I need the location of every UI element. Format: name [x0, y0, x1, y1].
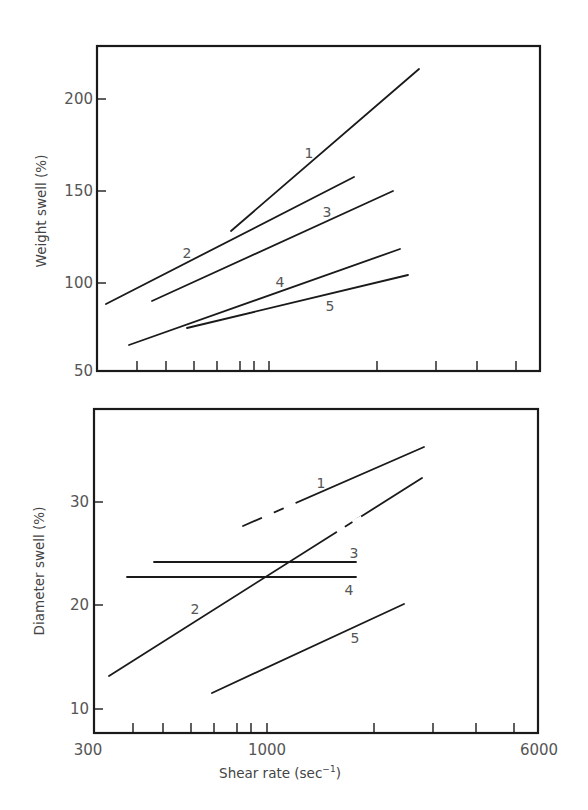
top-ytick-label-150: 150 — [64, 182, 93, 200]
x-axis-title-superscript: −1 — [322, 764, 335, 774]
x-axis-title-main: Shear rate (sec — [219, 765, 322, 781]
bottom-xtick-label-6000: 6000 — [520, 741, 558, 759]
bottom-xticks — [133, 723, 514, 733]
top-ytick-label-100: 100 — [64, 274, 93, 292]
top-y-axis-title: Weight swell (%) — [33, 155, 49, 268]
top-series-2 — [106, 177, 354, 304]
top-series-label-1: 1 — [305, 145, 314, 161]
bottom-series-label-5: 5 — [351, 630, 360, 646]
top-series-label-3: 3 — [323, 204, 332, 220]
bottom-ytick-label-30: 30 — [70, 493, 89, 511]
figure: 200 150 100 50 1 2 3 4 5 Wei — [0, 0, 588, 810]
dash-gaps — [262, 504, 362, 532]
bottom-series-5 — [212, 604, 404, 693]
top-series-5 — [187, 275, 408, 328]
top-chart-weight-swell: 200 150 100 50 1 2 3 4 5 Wei — [33, 46, 540, 380]
bottom-xtick-label-1000: 1000 — [248, 741, 286, 759]
top-ytick-label-200: 200 — [64, 90, 93, 108]
bottom-series-label-3: 3 — [350, 545, 359, 561]
bottom-series-label-2: 2 — [191, 601, 200, 617]
bottom-plot-frame — [94, 409, 538, 733]
bottom-xtick-label-300: 300 — [74, 741, 103, 759]
x-axis-title-close: ) — [336, 765, 341, 781]
x-axis-title: Shear rate (sec−1) — [219, 764, 341, 781]
top-series-label-2: 2 — [183, 245, 192, 261]
bottom-series-label-1: 1 — [317, 475, 326, 491]
top-xticks — [137, 361, 516, 371]
bottom-chart-diameter-swell: 30 20 10 300 1000 6000 — [31, 409, 558, 781]
top-series-label-4: 4 — [276, 274, 285, 290]
bottom-ytick-label-20: 20 — [70, 596, 89, 614]
top-series-label-5: 5 — [326, 298, 335, 314]
bottom-series-label-4: 4 — [345, 582, 354, 598]
top-plot-frame — [97, 46, 540, 371]
top-series-4 — [129, 249, 400, 345]
top-ytick-label-50: 50 — [74, 362, 93, 380]
bottom-y-axis-title: Diameter swell (%) — [31, 507, 47, 636]
bottom-ytick-label-10: 10 — [70, 700, 89, 718]
